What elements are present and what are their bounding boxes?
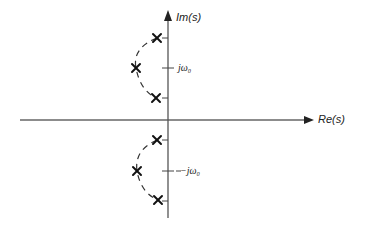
real-axis <box>20 116 314 124</box>
pole-x-icon <box>154 196 162 204</box>
imag-axis-label: Im(s) <box>176 11 201 23</box>
s-plane-graphic <box>0 0 366 233</box>
pole-x-icon <box>153 34 161 42</box>
pole-x-icon <box>152 94 160 102</box>
lower-frequency-label: −jω₀ <box>180 165 200 176</box>
upper-pole-arc <box>135 38 157 98</box>
upper-frequency-label: jω₀ <box>178 62 191 73</box>
pole-x-icon <box>153 136 161 144</box>
imag-axis-arrow-icon <box>164 10 172 21</box>
pole-markers <box>132 34 162 204</box>
real-axis-label: Re(s) <box>318 113 345 125</box>
lower-pole-arc <box>137 140 158 200</box>
real-axis-arrow-icon <box>304 116 314 124</box>
imag-axis <box>164 10 172 218</box>
s-plane-diagram: Im(s) Re(s) jω₀ −jω₀ <box>0 0 366 233</box>
